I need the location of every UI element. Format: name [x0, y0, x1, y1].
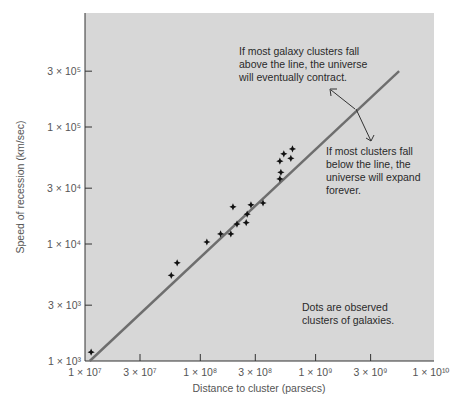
y-tick-label: 3 × 10⁴ — [47, 182, 81, 194]
y-tick-label: 1 × 10⁴ — [47, 238, 81, 250]
x-tick-label: 1 × 10⁸ — [183, 366, 217, 378]
x-tick-label: 3 × 10⁹ — [354, 366, 388, 378]
hubble-chart: 1 × 10³3 × 10³1 × 10⁴3 × 10⁴1 × 10⁵3 × 1… — [0, 0, 468, 406]
x-tick-label: 1 × 10⁹ — [299, 366, 333, 378]
note-dots: Dots are observed clusters of galaxies. — [302, 301, 394, 326]
y-tick-label: 3 × 10⁵ — [47, 65, 81, 77]
y-axis-title: Speed of recession (km/sec) — [14, 120, 26, 253]
y-tick-label: 3 × 10³ — [48, 299, 81, 311]
x-tick-label: 1 × 10¹⁰ — [412, 366, 450, 378]
x-tick-label: 3 × 10⁷ — [123, 366, 156, 378]
x-tick-label: 3 × 10⁸ — [238, 366, 272, 378]
y-tick-label: 1 × 10⁵ — [47, 121, 81, 133]
x-tick-label: 1 × 10⁷ — [68, 366, 101, 378]
x-axis-title: Distance to cluster (parsecs) — [192, 382, 325, 394]
